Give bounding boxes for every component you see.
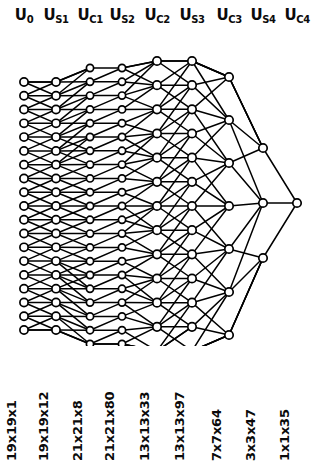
network-node-uc1 — [86, 133, 93, 140]
layer-title-base: U — [216, 6, 228, 24]
network-node-u0 — [20, 298, 28, 306]
layer-title-us4: US4 — [250, 8, 275, 23]
network-edge — [122, 109, 157, 137]
network-node-us1 — [52, 188, 60, 196]
network-node-uc1 — [86, 106, 93, 113]
network-node-us3 — [188, 323, 196, 331]
network-node-u0 — [20, 271, 28, 279]
network-node-us2 — [118, 230, 125, 237]
network-node-u0 — [20, 188, 28, 196]
network-node-uc1 — [86, 78, 93, 85]
network-node-u0 — [20, 312, 28, 320]
network-node-us1 — [52, 216, 60, 224]
network-node-uc2 — [153, 274, 161, 282]
layer-size-uc1: 21x21x8 — [71, 400, 84, 461]
network-node-uc1 — [86, 299, 93, 306]
network-node-us3 — [188, 81, 196, 89]
network-edge — [90, 178, 122, 192]
network-node-u0 — [20, 119, 28, 127]
network-node-uc2 — [153, 226, 161, 234]
network-node-uc1 — [86, 120, 93, 127]
network-node-us2 — [118, 92, 125, 99]
network-edge — [263, 203, 297, 258]
network-node-us1 — [52, 326, 60, 334]
network-edge — [56, 96, 90, 110]
layer-title-base: U — [284, 6, 296, 24]
network-node-us2 — [118, 271, 125, 278]
layer-size-u0: 19x19x1 — [5, 400, 18, 461]
network-node-uc1 — [86, 258, 93, 265]
layer-size-us3: 13x13x97 — [173, 392, 186, 461]
network-edge — [90, 165, 122, 179]
network-node-u0 — [20, 105, 28, 113]
network-node-us2 — [118, 120, 125, 127]
layer-title-us3: US3 — [179, 8, 204, 23]
network-node-us1 — [52, 119, 60, 127]
layer-title-subscript: C4 — [296, 14, 309, 25]
network-node-u0 — [20, 147, 28, 155]
network-node-u0 — [20, 243, 28, 251]
network-edge — [90, 303, 122, 317]
network-node-us2 — [118, 64, 125, 71]
network-node-uc2 — [153, 298, 161, 306]
network-node-u0 — [20, 174, 28, 182]
network-node-uc3 — [225, 159, 233, 167]
network-node-u0 — [20, 229, 28, 237]
network-edge — [90, 247, 122, 261]
network-node-us1 — [52, 105, 60, 113]
network-node-u0 — [20, 216, 28, 224]
network-node-us2 — [118, 106, 125, 113]
network-node-us2 — [118, 189, 125, 196]
network-graph — [0, 36, 328, 346]
network-node-u0 — [20, 202, 28, 210]
layer-size-us1: 19x19x12 — [37, 392, 50, 461]
network-node-uc1 — [86, 175, 93, 182]
network-node-us3 — [188, 129, 196, 137]
network-node-us2 — [118, 161, 125, 168]
layer-title-base: U — [179, 6, 191, 24]
network-node-uc3 — [225, 73, 233, 81]
network-node-uc3 — [225, 245, 233, 253]
network-node-us1 — [52, 298, 60, 306]
network-edge — [56, 82, 90, 96]
network-edge — [90, 330, 122, 344]
network-edge — [90, 206, 122, 220]
network-edge — [229, 203, 263, 249]
network-node-us1 — [52, 257, 60, 265]
network-node-uc2 — [153, 178, 161, 186]
network-edge — [229, 258, 263, 292]
network-node-us4 — [259, 254, 267, 262]
network-edge — [90, 137, 122, 151]
network-edge — [229, 203, 263, 206]
network-edge — [229, 163, 263, 203]
network-node-u0 — [20, 161, 28, 169]
network-node-uc3 — [225, 202, 233, 210]
network-edge — [90, 316, 122, 330]
network-edge — [122, 182, 157, 192]
network-node-u0 — [20, 133, 28, 141]
network-edge — [90, 289, 122, 303]
network-edge — [90, 82, 122, 96]
network-edge — [122, 330, 157, 346]
layer-size-us4: 3x3x47 — [244, 409, 257, 461]
network-node-uc1 — [86, 64, 93, 71]
network-edge — [90, 261, 122, 275]
network-node-us2 — [118, 147, 125, 154]
layer-title-base: U — [43, 6, 55, 24]
network-node-uc3 — [225, 288, 233, 296]
network-node-uc2 — [153, 202, 161, 210]
network-node-uc1 — [86, 271, 93, 278]
network-node-us3 — [188, 202, 196, 210]
network-node-us2 — [118, 244, 125, 251]
layer-size-uc3: 7x7x64 — [210, 409, 223, 461]
layer-title-uc1: UC1 — [77, 8, 102, 23]
network-node-us1 — [52, 147, 60, 155]
network-node-uc1 — [86, 313, 93, 320]
network-node-us3 — [188, 153, 196, 161]
network-edge — [56, 123, 90, 137]
layer-title-uc3: UC3 — [216, 8, 241, 23]
network-edge — [229, 77, 263, 148]
network-edge — [229, 249, 263, 258]
layer-size-us2: 21x21x80 — [103, 392, 116, 461]
layer-title-subscript: C2 — [156, 14, 169, 25]
